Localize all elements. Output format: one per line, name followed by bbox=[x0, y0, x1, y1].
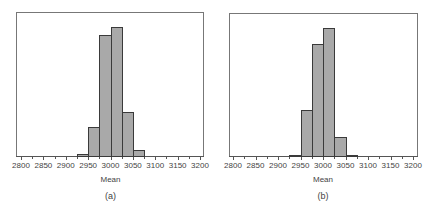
x-tick bbox=[413, 157, 414, 160]
x-minor-tick bbox=[289, 157, 290, 159]
histogram-panel-b: 280028502900295030003050310031503200Mean… bbox=[0, 0, 216, 213]
x-tick-label: 2900 bbox=[269, 161, 287, 170]
x-tick-label: 3000 bbox=[314, 161, 332, 170]
x-tick-label: 3050 bbox=[337, 161, 355, 170]
x-minor-tick bbox=[312, 157, 313, 159]
x-minor-tick bbox=[334, 157, 335, 159]
x-tick bbox=[391, 157, 392, 160]
x-tick-label: 3200 bbox=[404, 161, 422, 170]
x-minor-tick bbox=[357, 157, 358, 159]
x-tick bbox=[323, 157, 324, 160]
x-tick-label: 2950 bbox=[292, 161, 310, 170]
x-tick-label: 2850 bbox=[247, 161, 265, 170]
x-tick bbox=[346, 157, 347, 160]
x-tick bbox=[233, 157, 234, 160]
x-minor-tick bbox=[244, 157, 245, 159]
x-tick-label: 3100 bbox=[359, 161, 377, 170]
histogram-bar bbox=[334, 137, 346, 157]
x-minor-tick bbox=[267, 157, 268, 159]
x-tick bbox=[368, 157, 369, 160]
panel-caption: (b) bbox=[318, 191, 329, 201]
x-minor-tick bbox=[402, 157, 403, 159]
x-minor-tick bbox=[379, 157, 380, 159]
x-tick-label: 3150 bbox=[382, 161, 400, 170]
x-tick bbox=[278, 157, 279, 160]
x-tick bbox=[256, 157, 257, 160]
x-tick bbox=[301, 157, 302, 160]
x-tick-label: 2800 bbox=[224, 161, 242, 170]
x-axis-label: Mean bbox=[313, 175, 333, 184]
